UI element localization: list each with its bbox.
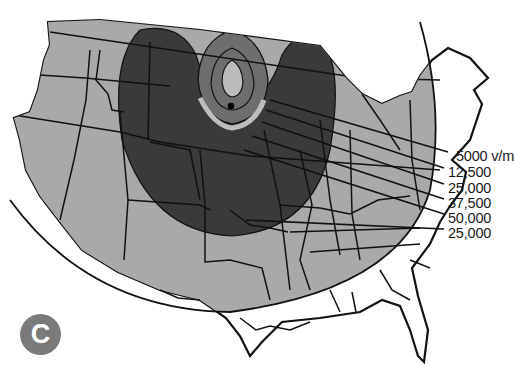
contour-label-5000: 5000 v/m [456, 149, 514, 164]
contour-label-37500: 37,500 [448, 196, 491, 211]
panel-letter-badge: C [20, 314, 61, 355]
contour-label-25000-b: 25,000 [448, 226, 491, 241]
burst-point-marker [228, 103, 235, 110]
contour-label-50000: 50,000 [448, 211, 491, 226]
contour-label-12500: 12,500 [448, 165, 491, 180]
contour-label-25000-a: 25,000 [448, 181, 491, 196]
emp-field-map [0, 0, 515, 365]
